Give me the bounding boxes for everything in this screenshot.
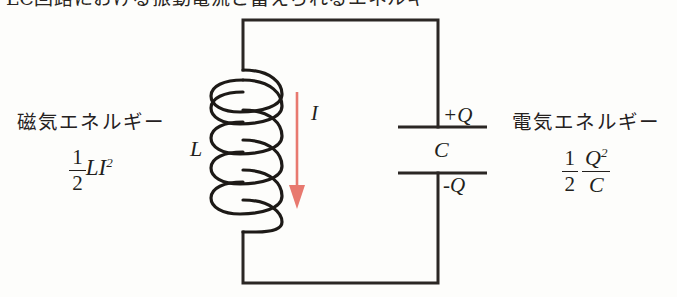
magnetic-energy-body: LI — [86, 155, 106, 180]
figure-canvas: LC回路における振動電流と蓄えられるエネルギー L I C — [0, 0, 677, 297]
electric-energy-c-symbol: C — [582, 173, 610, 196]
magnetic-energy-block: 磁気エネルギー 1 2 LI2 — [6, 106, 176, 194]
magnetic-energy-formula: 1 2 LI2 — [6, 146, 176, 194]
electric-energy-denominator: 2 — [562, 173, 579, 195]
magnetic-energy-denominator: 2 — [69, 172, 86, 194]
electric-energy-half-fraction: 1 2 — [562, 147, 579, 195]
inductor-coil — [211, 70, 282, 232]
electric-energy-numerator: 1 — [562, 147, 579, 169]
magnetic-energy-half-fraction: 1 2 — [69, 146, 86, 194]
electric-energy-q2c-fraction: Q2 C — [582, 146, 610, 197]
electric-energy-block: 電気エネルギー 1 2 Q2 C — [500, 106, 672, 197]
wire-top — [243, 20, 438, 127]
current-label: I — [311, 103, 318, 124]
wire-bottom — [243, 173, 438, 283]
electric-energy-q2-numerator: Q2 — [582, 146, 610, 169]
magnetic-energy-caption: 磁気エネルギー — [6, 106, 176, 135]
electric-energy-q-symbol: Q — [585, 145, 601, 170]
charge-negative-label: -Q — [443, 175, 465, 196]
charge-positive-text: +Q — [443, 103, 472, 127]
electric-energy-q-exponent: 2 — [601, 145, 608, 160]
charge-positive-label: +Q — [443, 105, 472, 126]
magnetic-energy-numerator: 1 — [69, 146, 86, 168]
capacitor-label: C — [434, 139, 449, 161]
electric-energy-caption: 電気エネルギー — [500, 106, 672, 135]
electric-energy-formula: 1 2 Q2 C — [500, 146, 672, 197]
current-arrow — [289, 92, 305, 209]
charge-negative-text: -Q — [443, 173, 465, 197]
inductor-label: L — [190, 138, 202, 160]
magnetic-energy-exponent: 2 — [106, 155, 113, 170]
